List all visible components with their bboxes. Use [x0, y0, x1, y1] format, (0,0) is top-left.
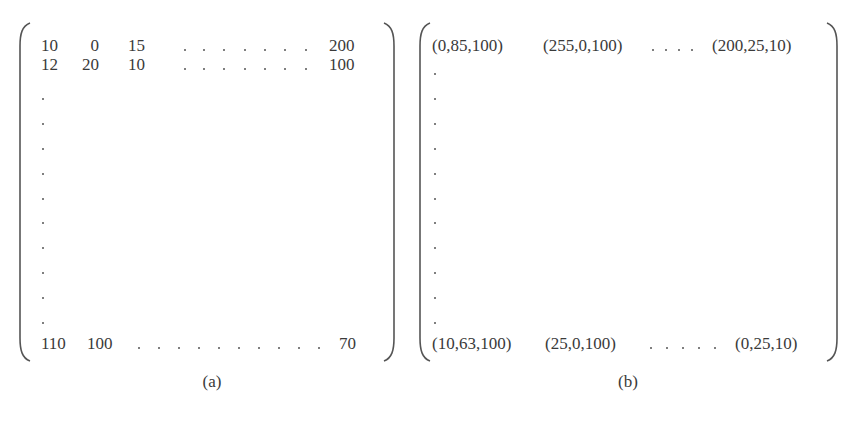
cell-a-r1-c1: 10: [41, 37, 58, 54]
cell-a-r1-c2: 0: [78, 37, 99, 54]
cell-a-last-c2: 100: [87, 335, 113, 352]
caption-a: (a): [203, 373, 222, 390]
cell-b-last-c2: (25,0,100): [545, 335, 616, 352]
cell-b-last-c1: (10,63,100): [432, 335, 511, 352]
cell-a-last-c3: 70: [339, 335, 356, 352]
cell-b-r1-c2: (255,0,100): [543, 37, 622, 54]
left-parenthesis-b: [418, 22, 432, 362]
cell-b-r1-last: (200,25,10): [712, 37, 791, 54]
cell-a-r1-last: 200: [329, 37, 355, 54]
cell-a-r2-c2: 20: [78, 56, 99, 73]
cell-b-r1-c1: (0,85,100): [432, 37, 503, 54]
right-parenthesis-b: [825, 22, 839, 362]
cell-a-r2-last: 100: [329, 56, 355, 73]
cell-a-r1-c3: 15: [128, 37, 145, 54]
cell-a-last-c1: 110: [41, 335, 66, 352]
cell-b-last-c3: (0,25,10): [735, 335, 797, 352]
left-parenthesis-a: [18, 22, 32, 362]
caption-b: (b): [618, 373, 638, 390]
cell-a-r2-c1: 12: [41, 56, 58, 73]
right-parenthesis-a: [382, 22, 396, 362]
cell-a-r2-c3: 10: [128, 56, 145, 73]
